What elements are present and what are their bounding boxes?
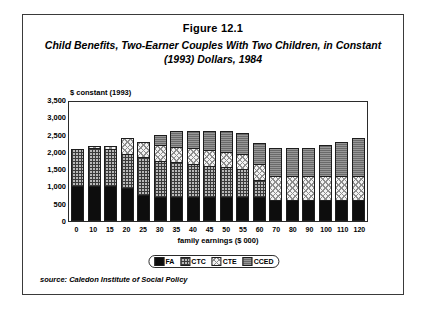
bar-segment-cced (187, 131, 200, 148)
x-axis-tick: 120 (353, 225, 366, 235)
bar-segment-ctc (170, 162, 183, 197)
x-axis-tick: 60 (253, 225, 266, 235)
legend-label: CCED (254, 258, 274, 266)
bar-segment-fa (170, 197, 183, 221)
bar-80[interactable] (286, 148, 299, 221)
bar-segment-ctc (104, 149, 117, 186)
legend-swatch-icon (180, 257, 190, 266)
x-axis-tick: 15 (103, 225, 116, 235)
bar-segment-ctc (203, 166, 216, 197)
bar-segment-cced (302, 148, 315, 176)
bar-segment-cced (236, 133, 249, 154)
bar-segment-ctc (71, 149, 84, 186)
bar-segment-cced (352, 138, 365, 176)
y-axis-tick: 1,500 (47, 166, 66, 174)
x-axis-tick: 55 (236, 225, 249, 235)
bar-25[interactable] (137, 142, 150, 221)
legend-item-cte[interactable]: CTE (212, 257, 237, 266)
bar-segment-cte (286, 176, 299, 200)
bar-120[interactable] (352, 138, 365, 221)
bar-series-container (69, 102, 367, 221)
bar-segment-cte (203, 150, 216, 166)
y-axis-tick: 2,000 (47, 149, 66, 157)
x-axis-tick: 0 (70, 225, 83, 235)
y-axis-tick: 3,500 (47, 97, 66, 105)
bar-0[interactable] (71, 149, 84, 221)
y-axis: 3,5003,0002,5002,0001,5001,0005000 (28, 96, 66, 228)
bar-segment-cte (154, 145, 167, 161)
bar-segment-cte (319, 176, 332, 200)
legend-swatch-icon (154, 257, 164, 266)
y-axis-title: $ constant (1993) (70, 88, 131, 97)
bar-70[interactable] (269, 148, 282, 221)
legend-item-ctc[interactable]: CTC (180, 257, 205, 266)
bar-15[interactable] (104, 146, 117, 221)
chart-legend: FACTCCTECCED (148, 255, 279, 268)
legend-item-cced[interactable]: CCED (243, 257, 274, 266)
bar-segment-fa (236, 197, 249, 221)
bar-segment-cte (170, 147, 183, 163)
bar-35[interactable] (170, 131, 183, 221)
bar-segment-ctc (88, 148, 101, 187)
y-axis-tick: 0 (62, 218, 66, 226)
bar-segment-cte (352, 176, 365, 200)
bar-segment-cced (269, 148, 282, 176)
y-axis-tick: 500 (53, 201, 66, 209)
x-axis-tick: 70 (270, 225, 283, 235)
bar-segment-cte (253, 164, 266, 180)
bar-segment-fa (253, 197, 266, 221)
x-axis-tick: 30 (153, 225, 166, 235)
bar-segment-fa (154, 197, 167, 221)
bar-segment-cced (154, 135, 167, 145)
bar-100[interactable] (319, 145, 332, 221)
bar-segment-fa (319, 200, 332, 221)
bar-40[interactable] (187, 131, 200, 221)
legend-label: FA (165, 258, 174, 266)
bar-segment-cte (335, 176, 348, 200)
bar-segment-fa (71, 186, 84, 221)
bar-segment-cced (170, 131, 183, 147)
bar-60[interactable] (253, 143, 266, 221)
bar-segment-fa (352, 200, 365, 221)
y-axis-tick: 3,000 (47, 114, 66, 122)
bar-segment-fa (335, 200, 348, 221)
legend-swatch-icon (243, 257, 253, 266)
bar-45[interactable] (203, 131, 216, 221)
figure-page: Figure 12.1 Child Benefits, Two-Earner C… (0, 0, 428, 320)
bar-55[interactable] (236, 133, 249, 221)
legend-item-fa[interactable]: FA (154, 257, 174, 266)
y-axis-tick: 1,000 (47, 183, 66, 191)
x-axis-tick: 10 (87, 225, 100, 235)
bar-segment-ctc (253, 180, 266, 197)
plot-area (68, 101, 368, 222)
bar-50[interactable] (220, 131, 233, 221)
x-axis: 01015202530354045505560708090100110120 (68, 225, 368, 235)
bar-10[interactable] (88, 146, 101, 221)
bar-segment-fa (286, 200, 299, 221)
bar-segment-cte (121, 138, 134, 154)
bar-segment-cte (236, 154, 249, 170)
bar-segment-cced (220, 131, 233, 152)
bar-segment-cte (302, 176, 315, 200)
bar-segment-fa (104, 186, 117, 221)
title-block: Figure 12.1 Child Benefits, Two-Earner C… (22, 22, 404, 66)
bar-segment-fa (203, 197, 216, 221)
x-axis-tick: 25 (137, 225, 150, 235)
bar-30[interactable] (154, 135, 167, 221)
bar-segment-cte (269, 176, 282, 200)
bar-segment-cced (319, 145, 332, 176)
bar-segment-fa (302, 200, 315, 221)
legend-swatch-icon (212, 257, 222, 266)
bar-segment-fa (269, 200, 282, 221)
bar-segment-cced (286, 148, 299, 176)
legend-label: CTC (191, 258, 205, 266)
x-axis-tick: 40 (186, 225, 199, 235)
bar-segment-ctc (220, 167, 233, 196)
bar-segment-fa (88, 186, 101, 221)
legend-label: CTE (223, 258, 237, 266)
bar-20[interactable] (121, 138, 134, 221)
bar-90[interactable] (302, 148, 315, 221)
y-axis-tick: 2,500 (47, 132, 66, 140)
bar-110[interactable] (335, 142, 348, 221)
bar-segment-cced (335, 142, 348, 177)
